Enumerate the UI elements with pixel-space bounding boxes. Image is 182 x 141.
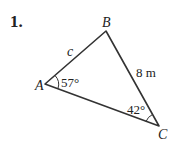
vertex-label-b: B	[102, 15, 111, 30]
vertex-label-a: A	[34, 78, 44, 93]
angle-arc-a	[55, 76, 59, 89]
angle-label-c: 42°	[127, 102, 145, 117]
triangle-diagram: 1. A B C c 8 m 57° 42°	[0, 0, 182, 141]
side-label-c: c	[67, 44, 74, 59]
angle-arc-c	[146, 115, 153, 122]
angle-label-a: 57°	[61, 75, 79, 90]
problem-number: 1.	[10, 12, 23, 31]
side-label-bc: 8 m	[136, 65, 156, 80]
vertex-label-c: C	[158, 127, 168, 141]
